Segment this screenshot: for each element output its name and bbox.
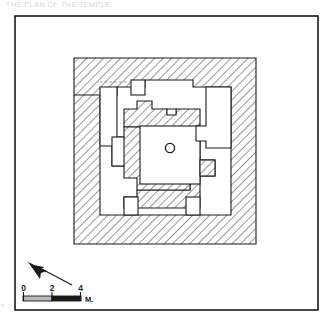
left-reentrant-void	[112, 137, 124, 166]
scale-label-0: 0	[21, 283, 26, 293]
scale-unit-label: M.	[85, 295, 93, 304]
bottom-notch-void-left	[124, 197, 138, 215]
scale-bar-segment-2-4	[52, 296, 81, 301]
faint-caption-text: THE PLAN OF THE TEMPLE	[6, 0, 156, 10]
scale-bar-segment-0-2	[23, 296, 52, 301]
floor-plan-drawing: 0 2 4 M.	[0, 0, 334, 321]
scale-label-2: 2	[50, 283, 55, 293]
figure-root: THE PLAN OF THE TEMPLE c	[0, 0, 334, 321]
bottom-notch-void-right	[186, 197, 200, 215]
top-notch-void-left	[131, 80, 145, 95]
inner-step-void	[167, 109, 176, 115]
scale-label-4: 4	[78, 283, 83, 293]
page-corner-mark: c	[1, 300, 5, 310]
central-chamber	[140, 126, 200, 184]
center-circle-feature	[165, 143, 174, 152]
right-pier-void	[200, 160, 215, 176]
